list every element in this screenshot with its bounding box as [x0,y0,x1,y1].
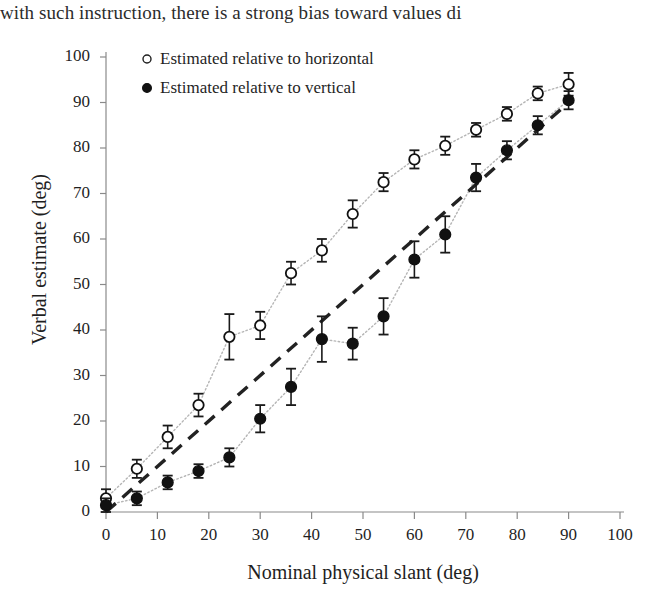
data-point [193,464,204,478]
marker-open-circle [286,268,296,278]
data-point [286,369,297,405]
marker-open-circle [409,154,419,164]
data-point [132,460,142,478]
x-axis-tick-label: 20 [187,525,231,545]
y-axis-tick-label: 10 [50,456,90,476]
figure-container: Estimated relative to horizontal Estimat… [0,26,649,602]
legend-item-horizontal: Estimated relative to horizontal [140,44,374,73]
legend-item-vertical: Estimated relative to vertical [140,73,374,102]
x-axis-tick-label: 10 [135,525,179,545]
y-axis-tick-label: 60 [50,228,90,248]
data-point [378,173,388,191]
data-point [101,498,112,512]
marker-filled-circle [193,466,204,477]
marker-filled-circle [440,229,451,240]
data-point [286,262,296,285]
data-point [255,405,266,432]
marker-open-circle [378,177,388,187]
filled-circle-icon [140,81,158,95]
legend-label-horizontal: Estimated relative to horizontal [158,49,374,69]
y-axis-tick-label: 0 [50,501,90,521]
marker-filled-circle [378,311,389,322]
marker-open-circle [502,109,512,119]
marker-filled-circle [224,452,235,463]
marker-filled-circle [532,120,543,131]
x-axis-tick-label: 40 [290,525,334,545]
marker-filled-circle [409,254,420,265]
data-point [502,141,513,159]
open-circle-icon [140,52,158,66]
marker-open-circle [132,464,142,474]
marker-open-circle [563,79,573,89]
marker-filled-circle [131,493,142,504]
y-axis-tick-label: 90 [50,92,90,112]
data-point [162,476,173,490]
data-point [440,137,450,155]
x-axis-tick-label: 90 [547,525,591,545]
marker-open-circle [533,88,543,98]
marker-filled-circle [563,95,574,106]
data-point [409,150,419,168]
chart-legend: Estimated relative to horizontal Estimat… [140,44,374,102]
series-line-1 [106,100,569,505]
marker-open-circle [162,432,172,442]
data-point [533,87,543,101]
chart-plot [0,26,649,602]
marker-open-circle [193,400,203,410]
marker-filled-circle [316,334,327,345]
x-axis-tick-label: 80 [495,525,539,545]
legend-label-vertical: Estimated relative to vertical [158,78,356,98]
data-point [502,107,512,121]
data-point [317,239,327,262]
x-axis-tick-label: 50 [341,525,385,545]
marker-filled-circle [471,172,482,183]
data-point [378,298,389,334]
y-axis-tick-label: 30 [50,365,90,385]
y-axis-tick-label: 80 [50,137,90,157]
x-axis-tick-label: 70 [444,525,488,545]
data-point [162,426,172,449]
marker-open-circle [471,125,481,135]
y-axis-tick-label: 50 [50,274,90,294]
y-axis-title: Verbal estimate (deg) [28,95,51,425]
marker-open-circle [440,141,450,151]
marker-filled-circle [162,477,173,488]
marker-filled-circle [347,338,358,349]
y-axis-tick-label: 40 [50,319,90,339]
data-point [224,314,234,360]
identity-reference-line [106,103,569,513]
marker-open-circle [317,245,327,255]
marker-filled-circle [101,500,112,511]
x-axis-tick-label: 0 [84,525,128,545]
marker-open-circle [348,209,358,219]
data-point [348,200,358,227]
page-text-fragment: with such instruction, there is a strong… [0,0,649,26]
marker-open-circle [224,332,234,342]
x-axis-title: Nominal physical slant (deg) [106,561,620,584]
y-axis-tick-label: 20 [50,410,90,430]
x-axis-tick-label: 100 [598,525,642,545]
series-line-0 [106,84,569,498]
data-point [347,328,358,360]
data-point [255,312,265,339]
data-point [563,91,574,109]
data-point [131,492,142,506]
marker-filled-circle [286,381,297,392]
data-point [440,216,451,252]
data-point [224,448,235,466]
y-axis-tick-label: 70 [50,183,90,203]
x-axis-tick-label: 30 [238,525,282,545]
data-point [409,241,420,277]
marker-filled-circle [502,145,513,156]
data-point [471,123,481,137]
marker-filled-circle [255,413,266,424]
data-point [316,316,327,362]
x-axis-tick-label: 60 [392,525,436,545]
marker-open-circle [255,320,265,330]
y-axis-tick-label: 100 [50,46,90,66]
